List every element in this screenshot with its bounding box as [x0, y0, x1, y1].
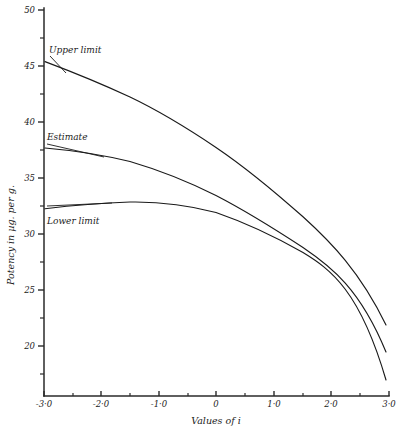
curve-estimate — [45, 148, 386, 352]
x-tick-label: -3·0 — [36, 399, 53, 409]
y-axis-major-ticks — [38, 10, 44, 346]
x-tick-label: 2·0 — [323, 399, 338, 409]
annotation-estimate: Estimate — [46, 132, 88, 142]
x-tick-label: 1·0 — [267, 399, 281, 409]
annotation-lower-limit: Lower limit — [46, 216, 100, 226]
curve-lower-limit — [45, 202, 386, 380]
x-tick-label: -2·0 — [93, 399, 110, 409]
y-tick-label: 40 — [23, 117, 35, 127]
leader-line-estimate — [47, 144, 104, 157]
y-tick-label: 50 — [24, 5, 35, 15]
y-tick-label: 45 — [23, 61, 35, 71]
x-axis-title: Values of i — [191, 415, 241, 426]
x-tick-label: 3·0 — [382, 399, 396, 409]
potency-line-chart: 50 45 40 35 30 25 20 -3·0 -2·0 -1·0 0 1·… — [0, 0, 401, 434]
x-tick-label: -1·0 — [151, 399, 168, 409]
y-tick-label: 20 — [23, 341, 35, 351]
y-tick-label: 25 — [23, 285, 35, 295]
curve-upper-limit — [45, 62, 386, 325]
annotation-upper-limit: Upper limit — [49, 45, 102, 55]
x-axis-tick-labels: -3·0 -2·0 -1·0 0 1·0 2·0 3·0 — [36, 399, 397, 409]
x-tick-label: 0 — [213, 399, 219, 409]
y-tick-label: 30 — [24, 229, 35, 239]
y-axis-title: Potency in µg. per g. — [5, 185, 16, 286]
y-tick-label: 35 — [24, 173, 35, 183]
y-axis-tick-labels: 50 45 40 35 30 25 20 — [23, 5, 35, 351]
